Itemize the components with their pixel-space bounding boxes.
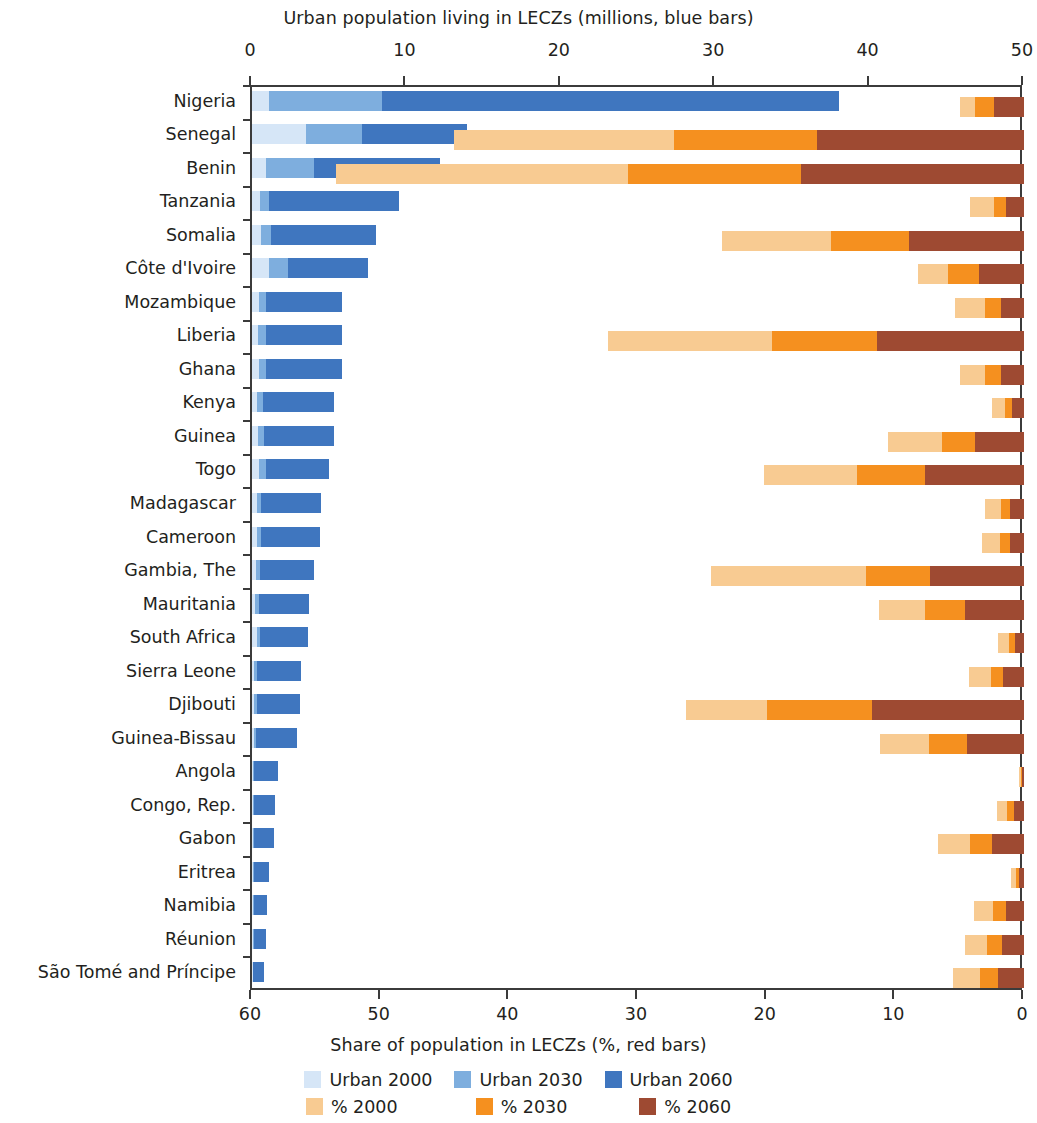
category-label: Kenya <box>0 392 244 412</box>
bar-segment-pct-2060 <box>925 465 1024 485</box>
category-tick-mark <box>243 119 252 121</box>
red-bar-group <box>252 97 1020 117</box>
category-tick-mark <box>243 722 252 724</box>
red-bar-group <box>252 365 1020 385</box>
red-bar-group <box>252 868 1020 888</box>
bottom-tick-mark <box>892 990 894 999</box>
legend-label: % 2060 <box>664 1097 731 1117</box>
legend-swatch-pct-2060 <box>639 1098 656 1115</box>
bar-segment-pct-2060 <box>1014 801 1024 821</box>
legend-item: Urban 2000 <box>304 1070 432 1090</box>
category-label: Gambia, The <box>0 560 244 580</box>
bar-segment-pct-2060 <box>1002 935 1024 955</box>
red-bar-group <box>252 734 1020 754</box>
legend-item: Urban 2030 <box>454 1070 582 1090</box>
category-tick-mark <box>243 286 252 288</box>
bottom-tick-mark <box>378 990 380 999</box>
legend-label: % 2030 <box>501 1097 568 1117</box>
top-tick-mark <box>1021 76 1023 85</box>
legend-swatch-urban-2000 <box>304 1071 321 1088</box>
bar-segment-pct-2060 <box>1015 633 1024 653</box>
category-tick-mark <box>243 253 252 255</box>
legend-label: Urban 2000 <box>329 1070 432 1090</box>
category-tick-mark <box>243 655 252 657</box>
top-tick-label: 20 <box>548 40 570 60</box>
red-bar-group <box>252 231 1020 251</box>
top-tick-mark <box>712 76 714 85</box>
legend-label: Urban 2030 <box>479 1070 582 1090</box>
category-tick-mark <box>243 755 252 757</box>
category-label: São Tomé and Príncipe <box>0 962 244 982</box>
category-label: Namibia <box>0 895 244 915</box>
category-tick-mark <box>243 353 252 355</box>
red-bar-group <box>252 667 1020 687</box>
legend-swatch-urban-2030 <box>454 1071 471 1088</box>
bar-segment-pct-2060 <box>817 130 1024 150</box>
category-label: Tanzania <box>0 191 244 211</box>
bar-segment-pct-2060 <box>992 834 1024 854</box>
legend-item: % 2000 <box>306 1097 398 1117</box>
category-tick-mark <box>243 219 252 221</box>
category-label: Cameroon <box>0 527 244 547</box>
top-tick-mark <box>558 76 560 85</box>
category-tick-mark <box>243 789 252 791</box>
category-label: Togo <box>0 459 244 479</box>
top-axis-title: Urban population living in LECZs (millio… <box>0 8 1037 28</box>
red-bar-group <box>252 767 1020 787</box>
legend-row-percent: % 2000% 2030% 2060 <box>0 1093 1037 1120</box>
chart-root: Urban population living in LECZs (millio… <box>0 0 1037 1123</box>
category-label: Nigeria <box>0 91 244 111</box>
category-tick-mark <box>243 554 252 556</box>
category-tick-mark <box>243 889 252 891</box>
legend-item: Urban 2060 <box>605 1070 733 1090</box>
category-label: Guinea <box>0 426 244 446</box>
bar-segment-pct-2060 <box>1001 365 1024 385</box>
category-tick-mark <box>243 923 252 925</box>
top-axis-tick-labels: 01020304050 <box>0 40 1037 64</box>
bar-segment-pct-2060 <box>1006 197 1024 217</box>
top-tick-mark <box>403 76 405 85</box>
category-label: Sierra Leone <box>0 661 244 681</box>
category-tick-mark <box>243 420 252 422</box>
bar-segment-pct-2060 <box>1010 499 1024 519</box>
bottom-tick-label: 40 <box>496 1004 518 1024</box>
category-tick-mark <box>243 856 252 858</box>
bottom-tick-mark <box>1021 990 1023 999</box>
category-tick-mark <box>243 621 252 623</box>
bar-segment-pct-2060 <box>801 164 1024 184</box>
category-label: Eritrea <box>0 862 244 882</box>
bar-segment-pct-2060 <box>877 331 1024 351</box>
bar-segment-pct-2060 <box>872 700 1024 720</box>
legend-item: % 2030 <box>476 1097 568 1117</box>
category-label: Gabon <box>0 828 244 848</box>
category-tick-mark <box>243 186 252 188</box>
bottom-tick-label: 0 <box>1016 1004 1027 1024</box>
red-bar-group <box>252 197 1020 217</box>
bar-segment-pct-2060 <box>1012 398 1024 418</box>
bottom-tick-label: 30 <box>625 1004 647 1024</box>
bottom-tick-label: 10 <box>882 1004 904 1024</box>
bar-segment-pct-2060 <box>909 231 1024 251</box>
category-tick-mark <box>243 387 252 389</box>
category-label: Djibouti <box>0 694 244 714</box>
category-label: Benin <box>0 158 244 178</box>
legend-label: Urban 2060 <box>630 1070 733 1090</box>
legend-label: % 2000 <box>331 1097 398 1117</box>
bottom-tick-mark <box>764 990 766 999</box>
category-label: Mozambique <box>0 292 244 312</box>
category-label: Congo, Rep. <box>0 795 244 815</box>
bottom-tick-mark <box>635 990 637 999</box>
red-bar-group <box>252 600 1020 620</box>
red-bar-group <box>252 566 1020 586</box>
bar-segment-pct-2060 <box>1003 667 1024 687</box>
bottom-tick-mark <box>506 990 508 999</box>
category-tick-mark <box>243 588 252 590</box>
category-label: Guinea-Bissau <box>0 728 244 748</box>
bar-segment-pct-2060 <box>1019 868 1024 888</box>
bar-segment-pct-2060 <box>975 432 1024 452</box>
bar-segment-pct-2060 <box>930 566 1024 586</box>
plot-area <box>250 85 1022 990</box>
bar-segment-pct-2060 <box>998 968 1024 988</box>
red-bar-group <box>252 834 1020 854</box>
category-label: South Africa <box>0 627 244 647</box>
